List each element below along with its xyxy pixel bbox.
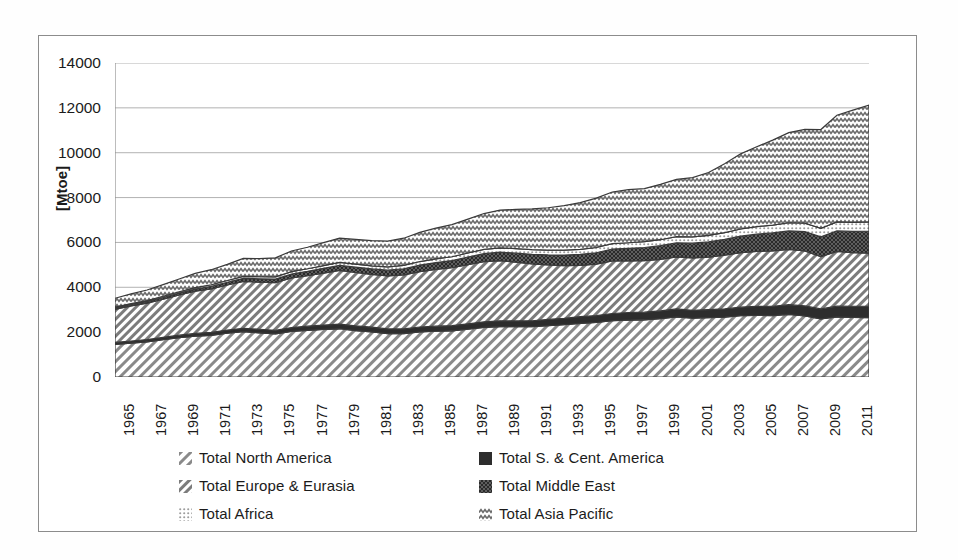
- y-axis-tick: 0: [39, 369, 101, 385]
- x-axis-tick: 2003: [731, 404, 747, 436]
- legend-label: Total S. & Cent. America: [499, 449, 664, 466]
- x-axis-tick: 1975: [281, 404, 297, 436]
- legend-label: Total North America: [199, 449, 332, 466]
- legend-item[interactable]: Total North America: [179, 449, 479, 466]
- y-axis-tick: 12000: [39, 100, 101, 116]
- legend-item[interactable]: Total Asia Pacific: [479, 505, 819, 522]
- x-axis-tick: 2005: [763, 404, 779, 436]
- plot-wrapper: [Mtoe] 14000120001000080006000400020000: [39, 36, 918, 386]
- scan-bleed-artifact: [0, 0, 958, 34]
- x-axis-tick: 1985: [442, 404, 458, 436]
- x-axis-tick: 1983: [410, 404, 426, 436]
- stacked-area-chart: [115, 63, 869, 377]
- legend-swatch-icon: [479, 451, 492, 464]
- x-axis-tick: 1995: [602, 404, 618, 436]
- x-axis-tick: 2011: [859, 405, 875, 436]
- legend-swatch-icon: [179, 507, 192, 520]
- y-axis-tick: 6000: [39, 234, 101, 250]
- legend-label: Total Europe & Eurasia: [199, 477, 355, 494]
- x-axis-tick: 1981: [378, 404, 394, 436]
- x-axis-tick: 2007: [795, 404, 811, 436]
- legend-swatch-icon: [179, 451, 192, 464]
- legend-item[interactable]: Total Africa: [179, 505, 479, 522]
- x-axis-tick: 1997: [634, 404, 650, 436]
- chart-frame: [Mtoe] 14000120001000080006000400020000: [38, 35, 917, 532]
- x-axis-tick: 1999: [666, 404, 682, 436]
- y-axis-tick: 2000: [39, 324, 101, 340]
- x-axis-tick: 1979: [346, 404, 362, 436]
- x-axis-tick: 1965: [121, 404, 137, 436]
- x-axis-tick: 1977: [314, 404, 330, 436]
- legend-swatch-icon: [479, 507, 492, 520]
- x-axis-tick: 1987: [474, 404, 490, 436]
- legend-item[interactable]: Total S. & Cent. America: [479, 449, 819, 466]
- y-axis-tick: 8000: [39, 190, 101, 206]
- x-axis-tick: 1973: [249, 404, 265, 436]
- x-axis-tick: 1991: [538, 404, 554, 436]
- x-axis-tick: 2001: [699, 404, 715, 436]
- x-axis-tick-labels: 1965196719691971197319751977197919811983…: [115, 382, 875, 444]
- plot-area: [115, 63, 869, 377]
- y-axis-tick: 14000: [39, 55, 101, 71]
- legend-swatch-icon: [179, 479, 192, 492]
- legend-swatch-icon: [479, 479, 492, 492]
- x-axis-tick: 1989: [506, 404, 522, 436]
- legend-label: Total Africa: [199, 505, 274, 522]
- chart-legend: Total North AmericaTotal S. & Cent. Amer…: [179, 449, 819, 522]
- x-axis-tick: 1967: [153, 404, 169, 436]
- x-axis-tick: 2009: [827, 404, 843, 436]
- x-axis-tick: 1971: [217, 404, 233, 436]
- area-series-group: [115, 105, 869, 377]
- y-axis-tick: 4000: [39, 279, 101, 295]
- x-axis-tick: 1969: [185, 404, 201, 436]
- legend-label: Total Middle East: [499, 477, 615, 494]
- legend-item[interactable]: Total Europe & Eurasia: [179, 477, 479, 494]
- y-axis-tick: 10000: [39, 145, 101, 161]
- x-axis-tick: 1993: [570, 404, 586, 436]
- legend-item[interactable]: Total Middle East: [479, 477, 819, 494]
- legend-label: Total Asia Pacific: [499, 505, 613, 522]
